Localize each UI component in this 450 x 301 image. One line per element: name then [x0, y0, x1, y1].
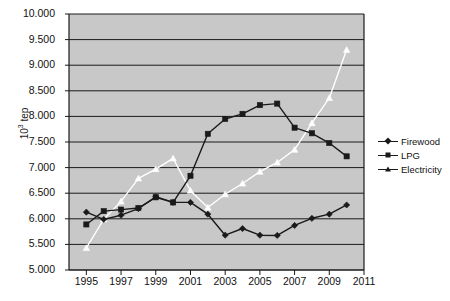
- data-point-square: [292, 125, 297, 130]
- data-point-square: [223, 116, 228, 121]
- diamond-marker-icon: [378, 135, 398, 147]
- legend-label-lpg: LPG: [398, 150, 420, 161]
- data-point-square: [327, 140, 332, 145]
- triangle-marker-icon: [378, 163, 398, 175]
- data-point-square: [309, 131, 314, 136]
- data-point-square: [240, 111, 245, 116]
- legend-label-firewood: Firewood: [398, 136, 440, 147]
- data-point-square: [84, 222, 89, 227]
- data-point-square: [118, 207, 123, 212]
- legend-label-electricity: Electricity: [398, 164, 442, 175]
- data-point-square: [344, 154, 349, 159]
- data-point-square: [275, 101, 280, 106]
- data-point-square: [101, 209, 106, 214]
- square-marker-icon: [378, 149, 398, 161]
- line-chart: 103 tep 5.0005.5006.0006.5007.0007.5008.…: [0, 0, 450, 301]
- chart-legend: Firewood LPG Electricity: [378, 134, 442, 176]
- data-point-square: [188, 173, 193, 178]
- data-point-square: [205, 131, 210, 136]
- legend-item-firewood[interactable]: Firewood: [378, 134, 442, 148]
- legend-item-electricity[interactable]: Electricity: [378, 162, 442, 176]
- data-point-square: [257, 103, 262, 108]
- legend-item-lpg[interactable]: LPG: [378, 148, 442, 162]
